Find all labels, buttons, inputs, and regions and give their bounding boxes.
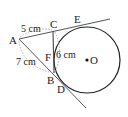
- label-d: D: [57, 83, 65, 95]
- center-point-o: [85, 58, 88, 61]
- label-e: E: [74, 13, 81, 25]
- measure-ab: 7 cm: [16, 56, 36, 67]
- label-a: A: [9, 34, 17, 46]
- geometry-diagram: A C E F B D O 5 cm 7 cm 6 cm: [0, 0, 128, 117]
- label-o: O: [90, 54, 98, 66]
- label-f: F: [45, 51, 51, 63]
- segment-cb: [53, 31, 54, 73]
- measure-cf: 6 cm: [56, 49, 76, 60]
- label-c: C: [50, 18, 57, 30]
- label-b: B: [47, 74, 54, 86]
- measure-ac: 5 cm: [21, 23, 41, 34]
